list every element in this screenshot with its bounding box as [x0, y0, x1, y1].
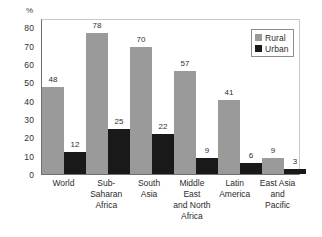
x-axis-label-line: Saharan	[86, 189, 127, 200]
bar-chart: % 80706050403020100 48127825702257941693…	[0, 0, 322, 237]
x-axis-label-line: Africa	[171, 211, 212, 222]
x-axis-label-line: Latin	[214, 178, 255, 189]
bar-group: 579	[174, 20, 218, 174]
bar-slot: 41	[218, 20, 240, 174]
bar-slot: 48	[42, 20, 64, 174]
bar-rural[interactable]: 9	[262, 158, 284, 174]
bar-urban[interactable]: 12	[64, 152, 86, 174]
bar-value-label: 12	[70, 140, 79, 149]
legend-item-rural[interactable]: Rural	[255, 32, 289, 43]
y-axis-tick-50: 50	[24, 78, 34, 88]
bar-urban[interactable]: 9	[196, 158, 218, 174]
legend-swatch-icon	[255, 34, 262, 41]
bar-group: 4812	[42, 20, 86, 174]
bar-slot: 22	[152, 20, 174, 174]
x-axis-label: East Asiaand Pacific	[256, 178, 299, 234]
x-axis-label-line: and Pacific	[257, 189, 298, 211]
bar-value-label: 9	[205, 146, 210, 155]
x-axis-category-labels: WorldSub-SaharanAfricaSouthAsiaMiddle Ea…	[42, 178, 299, 234]
bar-value-label: 9	[271, 146, 276, 155]
x-axis-label-line: Sub-	[86, 178, 127, 189]
x-axis-label: Middle Eastand NorthAfrica	[170, 178, 213, 234]
y-axis-tick-10: 10	[24, 152, 34, 162]
y-axis-unit-label: %	[26, 6, 33, 15]
bar-rural[interactable]: 70	[130, 47, 152, 174]
chart-legend: RuralUrban	[251, 29, 294, 57]
bar-slot: 57	[174, 20, 196, 174]
x-axis-label-line: America	[214, 189, 255, 200]
bar-urban[interactable]: 6	[240, 163, 262, 174]
bar-group: 7825	[86, 20, 130, 174]
x-axis-label: LatinAmerica	[213, 178, 256, 234]
x-axis-label-line: South	[129, 178, 170, 189]
bar-value-label: 78	[92, 21, 101, 30]
bar-value-label: 25	[114, 117, 123, 126]
x-axis-label-line: Asia	[129, 189, 170, 200]
bar-rural[interactable]: 48	[42, 87, 64, 174]
bar-rural[interactable]: 41	[218, 100, 240, 174]
y-axis-tick-40: 40	[24, 97, 34, 107]
x-axis-label: SouthAsia	[128, 178, 171, 234]
bar-value-label: 70	[136, 35, 145, 44]
bar-group: 7022	[130, 20, 174, 174]
bar-urban[interactable]: 3	[284, 169, 306, 174]
legend-label: Urban	[265, 44, 289, 54]
bar-value-label: 41	[224, 88, 233, 97]
bar-value-label: 6	[249, 151, 254, 160]
bar-slot: 9	[196, 20, 218, 174]
bar-urban[interactable]: 22	[152, 134, 174, 174]
bar-urban[interactable]: 25	[108, 129, 130, 174]
y-axis-tick-20: 20	[24, 133, 34, 143]
legend-item-urban[interactable]: Urban	[255, 43, 289, 54]
bar-slot: 25	[108, 20, 130, 174]
x-axis-label: Sub-SaharanAfrica	[85, 178, 128, 234]
legend-swatch-icon	[255, 45, 262, 52]
y-axis-tick-70: 70	[24, 42, 34, 52]
x-axis-label-line: Middle East	[171, 178, 212, 200]
legend-label: Rural	[265, 33, 286, 43]
bar-slot: 70	[130, 20, 152, 174]
y-axis-tick-80: 80	[24, 23, 34, 33]
y-axis-tick-0: 0	[29, 170, 34, 180]
bar-value-label: 57	[180, 59, 189, 68]
x-axis-label-line: Africa	[86, 200, 127, 211]
y-axis-tick-60: 60	[24, 60, 34, 70]
bar-rural[interactable]: 57	[174, 71, 196, 174]
x-axis-label: World	[42, 178, 85, 234]
bar-rural[interactable]: 78	[86, 33, 108, 174]
bar-value-label: 48	[48, 75, 57, 84]
bar-slot: 12	[64, 20, 86, 174]
bar-slot: 78	[86, 20, 108, 174]
x-axis-label-line: East Asia	[257, 178, 298, 189]
y-axis: 80706050403020100	[0, 19, 38, 175]
bar-value-label: 3	[293, 157, 298, 166]
x-axis-label-line: and North	[171, 200, 212, 211]
bar-value-label: 22	[158, 122, 167, 131]
x-axis-label-line: World	[43, 178, 84, 189]
y-axis-tick-30: 30	[24, 115, 34, 125]
